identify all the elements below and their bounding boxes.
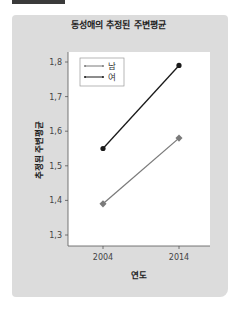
- legend: 남여: [80, 58, 124, 86]
- x-axis-title: 연도: [131, 270, 147, 280]
- y-tick-label: 1,3: [49, 231, 62, 240]
- y-tick-label: 1,8: [49, 58, 62, 67]
- y-tick-label: 1,6: [49, 127, 62, 136]
- chart-svg: 1,31,41,51,61,71,8 20042014 남여 추정된 주변평균 …: [0, 0, 237, 311]
- y-tick-label: 1,4: [49, 196, 62, 205]
- legend-label: 남: [108, 61, 116, 71]
- data-point: [176, 63, 181, 68]
- x-tick-label: 2014: [169, 253, 189, 262]
- x-ticks: 20042014: [93, 246, 189, 262]
- y-tick-label: 1,7: [49, 93, 62, 102]
- x-tick-label: 2004: [93, 253, 113, 262]
- data-point: [100, 146, 105, 151]
- y-ticks: 1,31,41,51,61,71,8: [49, 58, 68, 240]
- y-tick-label: 1,5: [49, 162, 62, 171]
- legend-label: 여: [108, 72, 116, 82]
- y-axis-title: 추정된 주변평균: [34, 121, 44, 180]
